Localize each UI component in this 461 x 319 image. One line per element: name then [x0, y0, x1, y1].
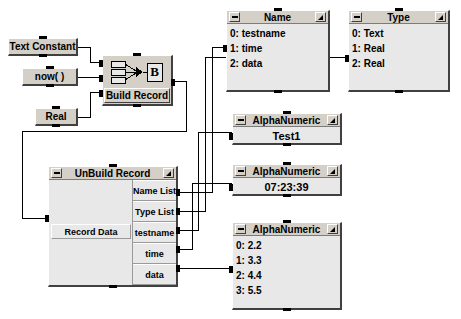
node-now-label: now( ) — [35, 71, 64, 82]
list-item: 2: Real — [352, 56, 448, 71]
build-output-terminal[interactable] — [171, 79, 175, 86]
maximize-icon[interactable] — [315, 12, 326, 22]
node-tick-top — [52, 106, 60, 109]
terminal-time-label: time — [145, 249, 164, 259]
window-name[interactable]: Name 0: testname 1: time 2: data — [226, 10, 330, 92]
alphanumeric-data-input-terminal[interactable] — [229, 266, 233, 273]
node-build-record[interactable]: B Build Record — [102, 55, 173, 106]
build-input-terminal-2[interactable] — [99, 75, 103, 82]
list-item: 0: testname — [230, 26, 328, 41]
build-input-terminal-1[interactable] — [99, 60, 103, 67]
node-text-constant-label: Text Constant — [10, 41, 76, 52]
unbuild-input-terminal[interactable] — [45, 215, 49, 222]
name-title: Name — [264, 12, 291, 23]
wire-time-to-alpha — [178, 183, 232, 249]
name-input-terminal[interactable] — [223, 45, 227, 52]
unbuild-record-input-pane: Record Data — [49, 180, 133, 285]
alphanumeric-testname-titlebar[interactable]: AlphaNumeric — [233, 114, 340, 127]
node-now[interactable]: now( ) — [22, 68, 78, 86]
window-alphanumeric-time[interactable]: AlphaNumeric 07:23:39 — [232, 164, 342, 196]
list-item: 0: 2.2 — [236, 238, 340, 253]
node-real[interactable]: Real — [35, 108, 78, 126]
alphanumeric-time-value: 07:23:39 — [236, 180, 340, 194]
name-list-body: 0: testname 1: time 2: data — [227, 24, 328, 90]
terminal-type-list-label: Type List — [135, 207, 174, 217]
maximize-icon[interactable] — [163, 168, 174, 178]
unbuild-output-terminal-time[interactable] — [176, 246, 180, 253]
terminal-record-data[interactable]: Record Data — [51, 224, 131, 239]
terminal-testname[interactable]: testname — [133, 222, 176, 243]
type-list-body: 0: Text 1: Real 2: Real — [349, 24, 448, 90]
terminal-time[interactable]: time — [133, 243, 176, 264]
unbuild-record-body: Record Data Name List Type List testname… — [49, 180, 176, 285]
unbuild-output-terminal-name-list[interactable] — [176, 189, 180, 196]
window-tick-bottom — [283, 143, 291, 146]
alphanumeric-data-titlebar[interactable]: AlphaNumeric — [233, 223, 340, 236]
type-input-terminal[interactable] — [345, 55, 349, 62]
unbuild-output-terminal-data[interactable] — [176, 265, 180, 272]
type-titlebar[interactable]: Type — [349, 11, 448, 24]
node-tick-bottom — [46, 84, 54, 87]
alphanumeric-time-input-terminal[interactable] — [229, 184, 233, 191]
window-type[interactable]: Type 0: Text 1: Real 2: Real — [348, 10, 450, 92]
name-titlebar[interactable]: Name — [227, 11, 328, 24]
terminal-name-list[interactable]: Name List — [133, 180, 176, 201]
unbuild-output-terminal-testname[interactable] — [176, 227, 180, 234]
type-title: Type — [387, 12, 410, 23]
window-tick-bottom — [283, 194, 291, 197]
minimize-icon[interactable] — [51, 168, 62, 178]
maximize-icon[interactable] — [327, 224, 338, 234]
node-tick-bottom — [39, 54, 47, 57]
svg-text:B: B — [150, 64, 159, 79]
alphanumeric-testname-input-terminal[interactable] — [229, 133, 233, 140]
node-tick-bottom — [52, 124, 60, 127]
alphanumeric-time-titlebar[interactable]: AlphaNumeric — [233, 165, 340, 178]
node-real-label: Real — [45, 111, 66, 122]
list-item: 3: 5.5 — [236, 283, 340, 298]
list-item: 1: time — [230, 41, 328, 56]
unbuild-record-titlebar[interactable]: UnBuild Record — [49, 167, 176, 180]
node-tick-top — [133, 53, 141, 56]
maximize-icon[interactable] — [327, 166, 338, 176]
window-alphanumeric-testname[interactable]: AlphaNumeric Test1 — [232, 113, 342, 145]
minimize-icon[interactable] — [235, 224, 246, 234]
minimize-icon[interactable] — [229, 12, 240, 22]
terminal-testname-label: testname — [135, 228, 175, 238]
unbuild-output-terminal-type-list[interactable] — [176, 208, 180, 215]
minimize-icon[interactable] — [235, 115, 246, 125]
maximize-icon[interactable] — [435, 12, 446, 22]
wire-namelist-to-name — [178, 47, 226, 192]
alphanumeric-data-body: 0: 2.2 1: 3.3 2: 4.4 3: 5.5 — [233, 236, 340, 308]
build-record-icon: B — [103, 56, 171, 88]
list-item: 2: 4.4 — [236, 268, 340, 283]
window-unbuild-record[interactable]: UnBuild Record Record Data Name List Typ… — [48, 166, 178, 287]
list-item: 0: Text — [352, 26, 448, 41]
window-alphanumeric-data[interactable]: AlphaNumeric 0: 2.2 1: 3.3 2: 4.4 3: 5.5 — [232, 222, 342, 310]
unbuild-record-title: UnBuild Record — [75, 168, 151, 179]
diagram-canvas: Text Constant now( ) Real — [0, 0, 461, 319]
build-record-label: Build Record — [104, 88, 170, 103]
build-input-terminal-3[interactable] — [99, 90, 103, 97]
terminal-name-list-label: Name List — [133, 186, 176, 196]
list-item: 1: 3.3 — [236, 253, 340, 268]
window-tick-bottom — [274, 90, 282, 93]
node-tick-top — [39, 36, 47, 39]
wire-testname-to-alpha — [178, 132, 232, 230]
terminal-data-label: data — [145, 270, 164, 280]
minimize-icon[interactable] — [351, 12, 362, 22]
unbuild-record-output-pane: Name List Type List testname time data — [133, 180, 176, 285]
alphanumeric-data-title: AlphaNumeric — [253, 224, 321, 235]
node-tick-top — [46, 66, 54, 69]
list-item: 1: Real — [352, 41, 448, 56]
list-item: 2: data — [230, 56, 328, 71]
alphanumeric-testname-body: Test1 — [233, 127, 340, 143]
terminal-type-list[interactable]: Type List — [133, 201, 176, 222]
minimize-icon[interactable] — [235, 166, 246, 176]
alphanumeric-testname-value: Test1 — [236, 129, 340, 143]
window-tick-bottom — [109, 285, 117, 288]
node-text-constant[interactable]: Text Constant — [8, 38, 78, 56]
alphanumeric-time-body: 07:23:39 — [233, 178, 340, 194]
window-tick-bottom — [395, 90, 403, 93]
terminal-data[interactable]: data — [133, 264, 176, 285]
maximize-icon[interactable] — [327, 115, 338, 125]
